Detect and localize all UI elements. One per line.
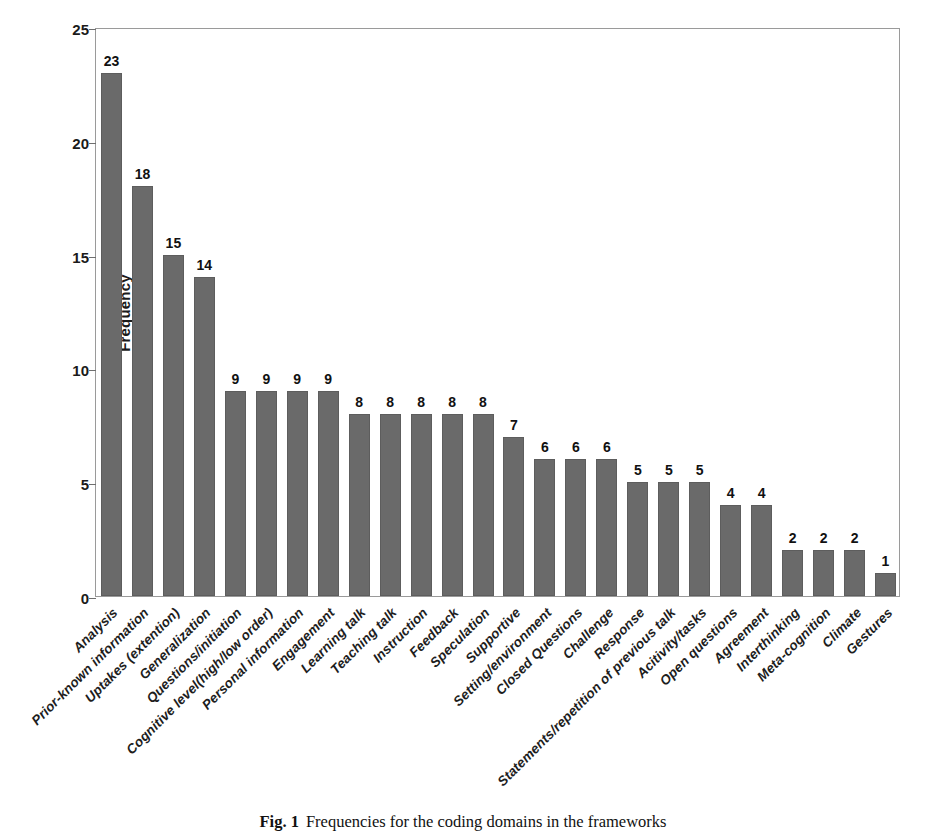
bar[interactable]	[225, 391, 246, 596]
bar[interactable]	[132, 186, 153, 596]
bar-value-label: 1	[882, 553, 890, 569]
bar[interactable]	[782, 550, 803, 596]
bar-column[interactable]: 23	[101, 27, 122, 596]
bar[interactable]	[534, 459, 555, 596]
bar-value-label: 4	[727, 485, 735, 501]
bar[interactable]	[875, 573, 896, 596]
bar-column[interactable]: 6	[596, 27, 617, 596]
bar[interactable]	[380, 414, 401, 596]
figure-caption-text: Frequencies for the coding domains in th…	[306, 812, 667, 831]
bar-value-label: 15	[166, 235, 182, 251]
bar[interactable]	[503, 437, 524, 596]
bar-value-label: 9	[262, 371, 270, 387]
bar-column[interactable]: 8	[442, 27, 463, 596]
bar[interactable]	[101, 73, 122, 596]
figure-caption: Fig. 1Frequencies for the coding domains…	[0, 812, 926, 832]
y-axis-tick-mark	[89, 484, 96, 485]
bar[interactable]	[627, 482, 648, 596]
bar-column[interactable]: 9	[287, 27, 308, 596]
bar-column[interactable]: 9	[225, 27, 246, 596]
bar-value-label: 7	[510, 417, 518, 433]
bar[interactable]	[256, 391, 277, 596]
bar[interactable]	[751, 505, 772, 596]
bar-value-label: 18	[135, 166, 151, 182]
bar-column[interactable]: 6	[565, 27, 586, 596]
bar-value-label: 5	[665, 462, 673, 478]
bar-value-label: 5	[696, 462, 704, 478]
bar-column[interactable]: 2	[844, 27, 865, 596]
bar[interactable]	[720, 505, 741, 596]
bar-column[interactable]: 5	[627, 27, 648, 596]
bar-column[interactable]: 18	[132, 27, 153, 596]
y-axis-tick-mark	[89, 257, 96, 258]
bar-value-label: 23	[104, 53, 120, 69]
bar-column[interactable]: 7	[503, 27, 524, 596]
bar-value-label: 4	[758, 485, 766, 501]
bar-column[interactable]: 4	[720, 27, 741, 596]
bar-value-label: 9	[231, 371, 239, 387]
bar[interactable]	[596, 459, 617, 596]
bar-value-label: 2	[851, 530, 859, 546]
y-axis-tick-mark	[89, 370, 96, 371]
figure-container: Frequency 0510152025 2318151499998888876…	[0, 0, 926, 839]
bar-value-label: 6	[603, 439, 611, 455]
y-axis-tick-label: 5	[1, 476, 89, 493]
y-axis-tick-label: 25	[1, 21, 89, 38]
bar-value-label: 8	[386, 394, 394, 410]
bar-column[interactable]: 14	[194, 27, 215, 596]
bar-value-label: 9	[324, 371, 332, 387]
figure-number: Fig. 1	[259, 812, 298, 831]
bar-value-label: 2	[820, 530, 828, 546]
bar[interactable]	[318, 391, 339, 596]
bar[interactable]	[473, 414, 494, 596]
bar-value-label: 8	[448, 394, 456, 410]
bar[interactable]	[844, 550, 865, 596]
chart-plot-area: Frequency 0510152025 2318151499998888876…	[95, 28, 900, 597]
bar-column[interactable]: 8	[411, 27, 432, 596]
bar-column[interactable]: 4	[751, 27, 772, 596]
y-axis-tick-mark	[89, 143, 96, 144]
bar[interactable]	[411, 414, 432, 596]
bar-value-label: 5	[634, 462, 642, 478]
bar[interactable]	[565, 459, 586, 596]
bar-column[interactable]: 2	[782, 27, 803, 596]
bar-value-label: 8	[479, 394, 487, 410]
bar-value-label: 6	[541, 439, 549, 455]
bar[interactable]	[163, 255, 184, 596]
y-axis-tick-label: 15	[1, 248, 89, 265]
bar-value-label: 2	[789, 530, 797, 546]
bar[interactable]	[349, 414, 370, 596]
bar-column[interactable]: 8	[380, 27, 401, 596]
bar-column[interactable]: 8	[473, 27, 494, 596]
bar-column[interactable]: 5	[658, 27, 679, 596]
bar-value-label: 6	[572, 439, 580, 455]
bar[interactable]	[194, 277, 215, 596]
bar-column[interactable]: 2	[813, 27, 834, 596]
bar-value-label: 8	[417, 394, 425, 410]
bar-column[interactable]: 15	[163, 27, 184, 596]
bar-column[interactable]: 5	[689, 27, 710, 596]
y-axis-tick-label: 20	[1, 134, 89, 151]
y-axis-tick-mark	[89, 598, 96, 599]
bar-column[interactable]: 8	[349, 27, 370, 596]
bar[interactable]	[689, 482, 710, 596]
bar[interactable]	[813, 550, 834, 596]
bar[interactable]	[658, 482, 679, 596]
bar-value-label: 8	[355, 394, 363, 410]
bar-column[interactable]: 9	[256, 27, 277, 596]
bar[interactable]	[287, 391, 308, 596]
bar-column[interactable]: 6	[534, 27, 555, 596]
y-axis-tick-mark	[89, 29, 96, 30]
bar-value-label: 9	[293, 371, 301, 387]
bar-column[interactable]: 1	[875, 27, 896, 596]
y-axis-tick-label: 0	[1, 590, 89, 607]
bar[interactable]	[442, 414, 463, 596]
y-axis-tick-label: 10	[1, 362, 89, 379]
bar-column[interactable]: 9	[318, 27, 339, 596]
bar-value-label: 14	[197, 257, 213, 273]
